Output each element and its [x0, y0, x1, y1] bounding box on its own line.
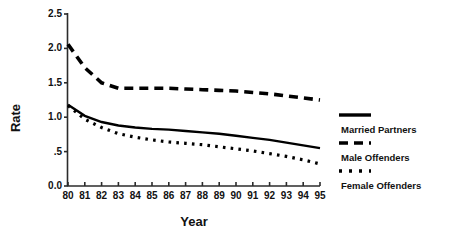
x-tick-label: 88 [197, 190, 209, 201]
legend-label-female-offenders: Female Offenders [341, 180, 421, 191]
series-line-male-offenders [68, 105, 320, 148]
x-tick-label: 81 [79, 190, 91, 201]
legend-label-male-offenders: Male Offenders [341, 152, 410, 163]
x-tick-label: 91 [247, 190, 259, 201]
x-tick-labels: 80818283848586878889909192939495 [62, 190, 326, 201]
y-tick-label: 1.5 [48, 77, 62, 88]
x-tick-label: 80 [62, 190, 74, 201]
x-tick-label: 85 [146, 190, 158, 201]
x-tick-label: 92 [264, 190, 276, 201]
chart-svg: Rate 0.0 .5 1.0 1.5 2.0 2.5 808182838485… [0, 0, 450, 242]
series-line-female-offenders [68, 106, 320, 164]
y-tick-label: 1.0 [48, 111, 62, 122]
x-tick-label: 87 [180, 190, 192, 201]
x-axis-title: Year [180, 214, 207, 229]
legend-label-married-partners: Married Partners [341, 124, 417, 135]
x-tick-label: 89 [214, 190, 226, 201]
x-tick-label: 90 [230, 190, 242, 201]
series-layer [68, 44, 320, 164]
chart-legend: Married Partners Male Offenders Female O… [339, 115, 421, 191]
x-tick-label: 86 [163, 190, 175, 201]
x-tick-label: 93 [281, 190, 293, 201]
y-tick-label: .5 [54, 146, 63, 157]
series-line-married-partners [68, 44, 320, 100]
y-tick-label: 2.5 [48, 8, 62, 19]
chart-figure: Rate 0.0 .5 1.0 1.5 2.0 2.5 808182838485… [0, 0, 450, 242]
x-tick-label: 95 [314, 190, 326, 201]
y-axis-title: Rate [8, 104, 23, 132]
x-tick-label: 84 [130, 190, 142, 201]
x-tick-label: 83 [113, 190, 125, 201]
y-tick-label: 2.0 [48, 42, 62, 53]
x-tick-label: 82 [96, 190, 108, 201]
x-tick-label: 94 [298, 190, 310, 201]
y-tick-labels: 0.0 .5 1.0 1.5 2.0 2.5 [48, 8, 62, 191]
y-tick-label: 0.0 [48, 180, 62, 191]
